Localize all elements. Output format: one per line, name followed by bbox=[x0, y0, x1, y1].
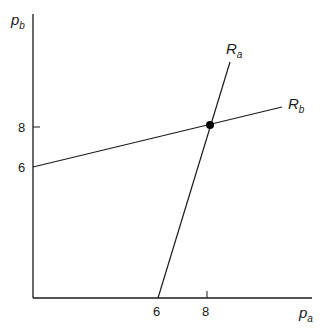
y-tick-label-6: 6 bbox=[18, 160, 25, 175]
curve-label-ra: Ra bbox=[226, 40, 243, 60]
y-axis-label: pb bbox=[10, 11, 25, 31]
reaction-curves-diagram: pb pa 8 6 6 8 Ra Rb bbox=[0, 0, 324, 332]
equilibrium-point bbox=[206, 121, 214, 129]
reaction-curve-rb bbox=[33, 107, 282, 167]
x-tick-label-8: 8 bbox=[202, 304, 209, 319]
x-tick-label-6: 6 bbox=[153, 304, 160, 319]
curve-label-rb: Rb bbox=[288, 95, 305, 115]
reaction-curve-ra bbox=[158, 62, 230, 298]
x-axis-label: pa bbox=[298, 304, 313, 324]
y-tick-label-8: 8 bbox=[18, 120, 25, 135]
